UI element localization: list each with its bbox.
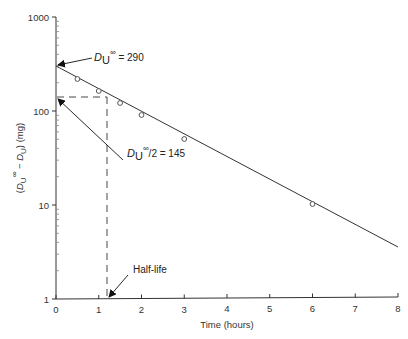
svg-text:(DU∞ − DU) (mg): (DU∞ − DU) (mg) xyxy=(10,123,28,193)
data-points xyxy=(75,77,315,207)
data-point xyxy=(139,113,144,118)
annotation-du-inf: DU∞ = 290 xyxy=(94,48,144,66)
chart: 1000 100 10 1 0 1 2 3 4 5 6 7 8 Time (ho… xyxy=(0,0,408,339)
y-axis-label: (DU∞ − DU) (mg) xyxy=(10,123,28,193)
x-tick-5: 5 xyxy=(267,303,272,314)
x-tick-0: 0 xyxy=(53,304,58,315)
data-point xyxy=(75,77,80,82)
data-point xyxy=(182,137,187,142)
data-point xyxy=(310,202,315,207)
x-axis: 0 1 2 3 4 5 6 7 8 Time (hours) xyxy=(53,293,400,330)
x-tick-3: 3 xyxy=(182,304,187,315)
data-point xyxy=(96,89,101,94)
half-life-guides xyxy=(57,97,107,298)
y-tick-1000: 1000 xyxy=(28,12,49,23)
y-axis: 1000 100 10 1 xyxy=(28,12,59,305)
annotation-arrows xyxy=(58,58,128,297)
x-tick-4: 4 xyxy=(224,303,229,314)
x-tick-6: 6 xyxy=(310,303,315,314)
annotation-du-half: DU∞/2 = 145 xyxy=(127,144,185,162)
x-tick-1: 1 xyxy=(96,304,101,315)
y-tick-10: 10 xyxy=(38,200,49,211)
annotation-half-life: Half-life xyxy=(133,264,167,275)
x-tick-2: 2 xyxy=(139,304,144,315)
y-tick-1: 1 xyxy=(44,294,49,305)
data-point xyxy=(118,101,123,106)
x-tick-7: 7 xyxy=(353,303,358,314)
y-tick-100: 100 xyxy=(33,106,49,117)
x-tick-8: 8 xyxy=(395,303,400,314)
x-axis-label: Time (hours) xyxy=(200,319,254,330)
